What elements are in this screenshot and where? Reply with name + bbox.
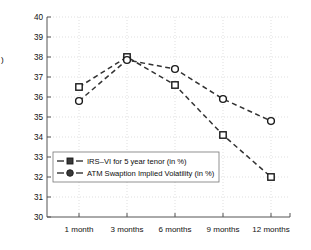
- data-point-circle: [76, 98, 83, 105]
- legend-label-atm-swaption: ATM Swaption Implied Volatility (in %): [87, 169, 215, 178]
- x-tick-label-3-months: 3 months: [111, 225, 144, 234]
- chart-legend[interactable]: IRS–VI for 5 year tenor (in %) ATM Swapt…: [53, 152, 219, 182]
- y-tick-label-32: 32: [34, 173, 44, 182]
- data-point-circle: [172, 66, 179, 73]
- data-point-circle: [220, 96, 227, 103]
- y-tick-label-36: 36: [34, 93, 44, 102]
- legend-label-irs-vi: IRS–VI for 5 year tenor (in %): [87, 157, 187, 166]
- square-marker-icon: [67, 158, 73, 164]
- data-point-square: [76, 84, 82, 90]
- y-tick-label-37: 37: [34, 73, 44, 82]
- y-tick-label-33: 33: [34, 153, 44, 162]
- y-axis-label-stub: ): [1, 55, 4, 64]
- x-tick-label-6-months: 6 months: [159, 225, 192, 234]
- x-tick-label-12-months: 12 months: [252, 225, 289, 234]
- x-tick-label-9-months: 9 months: [207, 225, 240, 234]
- data-point-square: [220, 132, 226, 138]
- y-tick-label-31: 31: [34, 193, 44, 202]
- y-tick-label-38: 38: [34, 53, 44, 62]
- y-tick-label-34: 34: [34, 133, 44, 142]
- x-tick-label-1-month: 1 month: [65, 225, 94, 234]
- data-point-circle: [124, 57, 131, 64]
- y-tick-label-35: 35: [34, 113, 44, 122]
- data-point-square: [268, 174, 274, 180]
- circle-marker-icon: [67, 170, 74, 177]
- y-tick-label-40: 40: [34, 13, 44, 22]
- y-tick-label-39: 39: [34, 33, 44, 42]
- data-point-circle: [268, 118, 275, 125]
- y-tick-label-30: 30: [34, 213, 44, 222]
- chart-figure: 40 39 38 37 36 35 34 33 32 31 30 ) 1 mon…: [0, 0, 311, 250]
- chart-canvas: 40 39 38 37 36 35 34 33 32 31 30 ) 1 mon…: [0, 0, 311, 250]
- data-point-square: [172, 82, 178, 88]
